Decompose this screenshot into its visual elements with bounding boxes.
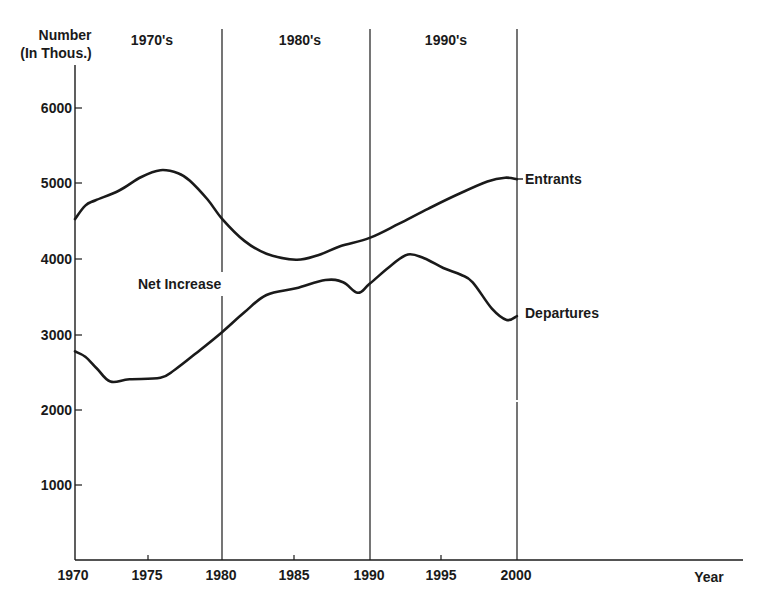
decade-label-1980s: 1980's [279,32,321,48]
y-axis-title-line1: Number [39,27,92,43]
y-tick-1000: 1000 [41,477,72,493]
departures-line [75,254,517,382]
y-tick-6000: 6000 [41,100,72,116]
x-ticks [148,555,441,560]
x-tick-1975: 1975 [131,567,162,583]
y-tick-3000: 3000 [41,327,72,343]
entrants-series-label: Entrants [525,171,582,187]
x-tick-1980: 1980 [205,567,236,583]
departures-series-label: Departures [525,305,599,321]
x-tick-1985: 1985 [278,567,309,583]
y-tick-2000: 2000 [41,402,72,418]
entrants-line [75,170,517,260]
decade-label-1970s: 1970's [131,32,173,48]
x-tick-1995: 1995 [425,567,456,583]
decade-label-1990s: 1990's [425,32,467,48]
y-tick-4000: 4000 [41,251,72,267]
x-tick-2000: 2000 [500,567,531,583]
y-tick-5000: 5000 [41,175,72,191]
line-chart: Number (In Thous.) Year 1970's 1980's 19… [0,0,763,602]
y-ticks [75,108,82,485]
x-tick-1990: 1990 [353,567,384,583]
y-axis-title-line2: (In Thous.) [20,45,92,61]
x-tick-1970: 1970 [57,567,88,583]
x-axis-title: Year [694,569,724,585]
net-increase-label: Net Increase [138,276,221,292]
